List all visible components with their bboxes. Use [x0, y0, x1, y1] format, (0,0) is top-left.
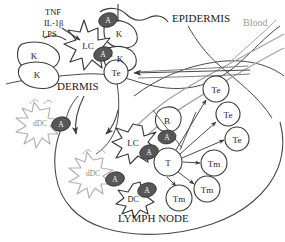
label-cell-k4: K	[117, 54, 124, 64]
label-cell-te1: Te	[112, 68, 121, 78]
label-cell-lc: LC	[82, 41, 94, 51]
label-blood: Blood	[243, 17, 267, 28]
label-cell-ddc2: dDC	[86, 169, 100, 178]
label-cell-te3: Te	[224, 110, 233, 120]
arrow-t-to-tm3	[167, 177, 176, 186]
label-cell-t1: T	[165, 158, 171, 168]
label-cell-te4: Te	[233, 135, 242, 145]
label-cell-lc2: LC	[127, 138, 139, 148]
arrow-lc-to-lymph	[106, 110, 118, 134]
label-cell-te2: Te	[212, 85, 221, 95]
label-lps: LPS	[42, 29, 57, 39]
label-cell-b1: B	[164, 116, 170, 126]
label-cell-ddc1: dDC	[33, 119, 47, 128]
immune-response-diagram: EPIDERMIS DERMIS LYMPH NODE Blood TNF IL…	[0, 0, 285, 242]
label-antigen-dc1: A	[144, 186, 150, 195]
arrow-t-to-tm2	[178, 172, 194, 184]
label-cell-dc1: DC	[127, 195, 138, 204]
label-cell-tm1: Tm	[208, 159, 221, 169]
label-dermis: DERMIS	[57, 80, 99, 92]
label-cell-k3: K	[116, 29, 123, 39]
label-antigen-ddc1: A	[58, 120, 64, 129]
label-cell-k2: K	[34, 70, 41, 80]
label-epidermis: EPIDERMIS	[172, 12, 230, 24]
label-cell-tm3: Tm	[173, 194, 186, 204]
label-antigen-b1: A	[164, 133, 170, 142]
label-tnf: TNF	[45, 7, 61, 17]
label-antigen-lc2: A	[146, 148, 152, 157]
label-cell-tm2: Tm	[201, 185, 214, 195]
label-antigen-ddc2: A	[112, 175, 118, 184]
arrow-t-to-tm1	[183, 162, 200, 163]
label-antigen-k3: A	[105, 16, 111, 25]
diagram-canvas: EPIDERMIS DERMIS LYMPH NODE Blood TNF IL…	[0, 0, 285, 242]
label-lymph-node: LYMPH NODE	[118, 212, 189, 224]
label-cell-k1: K	[31, 51, 38, 61]
label-antigen-lc: A	[100, 50, 106, 59]
arrow-ddc-migration-1	[75, 96, 84, 134]
label-il1b: IL-1β	[44, 18, 63, 28]
